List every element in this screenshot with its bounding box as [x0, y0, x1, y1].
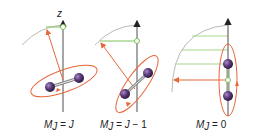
atom-2 — [223, 91, 233, 101]
atom-2 — [143, 68, 153, 78]
rotational-states-diagram: z MJ = J MJ = J − 1 — [0, 0, 254, 136]
panel-label-mj-eq-0: MJ = 0 — [196, 119, 227, 132]
projection-point — [226, 78, 231, 83]
panel-label-mj-eq-j-minus-1: MJ = J − 1 — [100, 119, 147, 132]
projection-arc — [22, 25, 63, 45]
projection-arc — [172, 25, 228, 92]
rotation-direction-arrow — [235, 81, 239, 86]
atom-2 — [74, 73, 84, 83]
panel-mj-eq-0: MJ = 0 — [172, 19, 239, 132]
projection-point — [61, 25, 66, 30]
projection-point — [135, 39, 140, 44]
panel-label-mj-eq-j: MJ = J — [44, 119, 75, 132]
atom-1 — [223, 59, 233, 69]
atom-1 — [120, 89, 130, 99]
atom-1 — [45, 82, 55, 92]
panel-mj-eq-j: z MJ = J — [22, 8, 101, 132]
z-axis-label: z — [56, 8, 62, 19]
projection-arc — [95, 25, 137, 45]
panel-mj-eq-j-minus-1: MJ = J − 1 — [95, 21, 165, 132]
rotation-direction-arrow — [56, 88, 61, 92]
angular-momentum-vector — [101, 43, 135, 89]
rotation-ellipse — [27, 59, 100, 104]
